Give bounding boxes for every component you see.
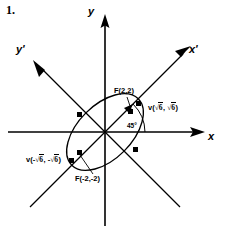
vertex-upper-label: v(√6, √6) [148, 104, 178, 112]
point-covertex-lower-right [133, 147, 138, 152]
figure-page: 1. [0, 0, 226, 233]
vertex-lower-prefix: v(- [26, 155, 35, 164]
vertex-lower-radical-2: √6 [50, 155, 58, 164]
x-axis-label: x [208, 131, 214, 142]
primary-axes [8, 14, 205, 226]
focus-upper-label: F(2,2) [114, 87, 134, 95]
x-prime-axis-label: x' [189, 44, 198, 55]
y-prime-axis-line [42, 69, 180, 207]
vertex-lower-radical-1: √6 [35, 155, 43, 164]
point-vertex-upper [136, 101, 141, 106]
vertex-upper-radical-2: √6 [167, 103, 175, 112]
vertex-upper-suffix: ) [176, 103, 179, 112]
coordinate-figure [0, 0, 226, 233]
point-focus-lower [77, 150, 82, 155]
y-axis-label: y [88, 6, 94, 17]
angle-45-label: 45° [127, 123, 137, 130]
vertex-upper-prefix: v( [148, 103, 155, 112]
point-covertex-upper-left [77, 112, 82, 117]
vertex-lower-label: v(-√6, -√6) [26, 156, 61, 164]
angle-arc-45 [105, 104, 145, 132]
point-vertex-lower [69, 158, 74, 163]
y-prime-axis-label: y' [16, 44, 25, 55]
focus-lower-label: F(-2,-2) [75, 175, 100, 183]
y-prime-arrowhead [33, 60, 45, 77]
vertex-upper-radical-1: √6 [155, 103, 163, 112]
point-focus-upper [128, 109, 133, 114]
vertex-lower-suffix: ) [59, 155, 62, 164]
